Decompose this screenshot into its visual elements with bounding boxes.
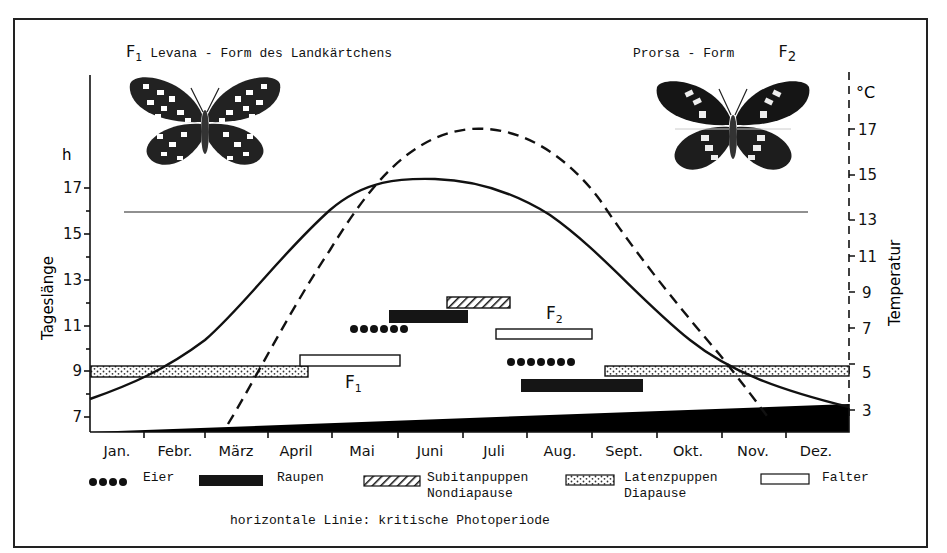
- bar-butterfly-f1: [300, 355, 400, 366]
- legend-eggs-swatch: [89, 478, 127, 486]
- left-axis-label: Tageslänge: [39, 256, 57, 341]
- y2-tick-3: 3: [862, 402, 872, 420]
- y-tick-11: 11: [63, 317, 82, 335]
- y2-tick-5: 5: [862, 364, 872, 382]
- x-label-jan: Jan.: [103, 443, 131, 459]
- legend-caterpillars-label: Raupen: [277, 470, 324, 485]
- legend-butterfly-swatch: [761, 474, 809, 484]
- legend-latent-label: LatenzpuppenDiapause: [624, 470, 718, 502]
- y2-tick-7: 7: [862, 320, 872, 338]
- x-label-may: Mai: [349, 443, 374, 459]
- x-label-jul: Juli: [482, 443, 505, 459]
- y-tick-15: 15: [63, 225, 82, 243]
- left-axis-unit: h: [62, 146, 72, 164]
- legend-caterpillars-swatch: [199, 475, 263, 486]
- x-label-nov: Nov.: [737, 443, 769, 459]
- bar-caterpillars-spring: [389, 310, 468, 323]
- bar-caterpillars-summer: [521, 379, 643, 392]
- x-label-aug: Aug.: [544, 443, 577, 459]
- legend-eggs-label: Eier: [143, 470, 174, 485]
- y2-tick-11: 11: [858, 248, 877, 266]
- y2-tick-15: 15: [858, 166, 877, 184]
- temperature-curve: [228, 129, 770, 424]
- x-label-jun: Juni: [416, 443, 444, 459]
- right-axis-label: Temperatur: [886, 239, 904, 327]
- legend-subitan-label: SubitanpuppenNondiapause: [427, 470, 528, 502]
- y-tick-9: 9: [72, 362, 82, 380]
- eggs-summer: [507, 358, 575, 366]
- legend-subitan-swatch: [364, 476, 420, 486]
- bar-latent-pupae-autumn: [605, 366, 849, 376]
- x-label-mar: März: [219, 443, 254, 459]
- left-y-axis: [84, 75, 90, 432]
- y-tick-13: 13: [63, 271, 82, 289]
- legend-butterfly-label: Falter: [822, 470, 869, 485]
- x-label-apr: April: [279, 443, 312, 459]
- y2-tick-17: 17: [858, 121, 877, 139]
- y-tick-17: 17: [63, 179, 82, 197]
- x-label-feb: Febr.: [158, 443, 193, 459]
- levana-butterfly-icon: [130, 77, 281, 165]
- y2-tick-13: 13: [858, 211, 877, 229]
- bar-butterfly-f2: [496, 329, 592, 339]
- x-label-dec: Dez.: [800, 443, 832, 459]
- legend-latent-swatch: [566, 475, 614, 485]
- bar-subitan-pupae: [447, 297, 510, 308]
- bar-latent-pupae-spring: [91, 366, 308, 377]
- eggs-spring: [350, 325, 408, 333]
- x-axis-ticks: [144, 432, 786, 438]
- y-tick-7: 7: [72, 408, 82, 426]
- y2-tick-9: 9: [862, 284, 872, 302]
- prorsa-butterfly-icon: [657, 81, 810, 169]
- x-label-sep: Sept.: [605, 443, 643, 459]
- critical-photoperiod-note: horizontale Linie: kritische Photoperiod…: [230, 513, 550, 528]
- x-label-oct: Okt.: [673, 443, 703, 459]
- right-axis-unit: °C: [856, 83, 875, 102]
